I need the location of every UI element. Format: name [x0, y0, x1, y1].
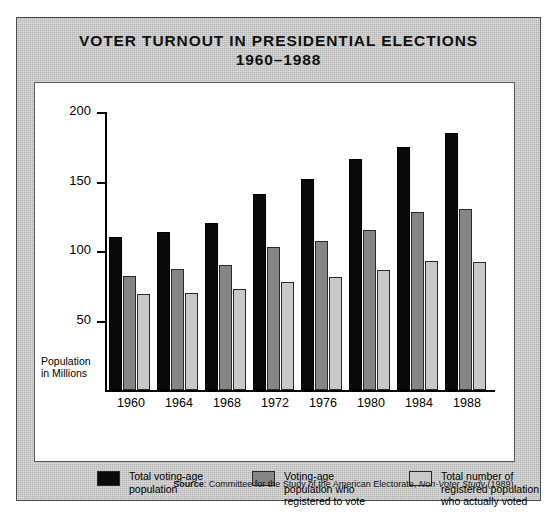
bar-1976-series-3: [329, 277, 342, 390]
bar-1984-series-3: [425, 261, 438, 390]
bar-1964-series-3: [185, 293, 198, 390]
bar-group-1968: [203, 110, 251, 390]
x-tick-label-1960: 1960: [107, 396, 155, 410]
y-tick-50: 50: [97, 321, 106, 323]
bar-group-1972: [251, 110, 299, 390]
source-note: Source: Committee for the Study of the A…: [173, 479, 516, 489]
source-italic-title: Non-Voter Study: [419, 479, 485, 489]
bar-1968-series-2: [219, 265, 232, 390]
bar-1988-series-3: [473, 262, 486, 390]
bar-1980-series-2: [363, 230, 376, 390]
bar-1984-series-1: [397, 147, 410, 390]
source-year: (1989).: [485, 479, 516, 489]
bar-1968-series-1: [205, 223, 218, 390]
bar-1964-series-2: [171, 269, 184, 390]
y-tick-100: 100: [97, 251, 106, 253]
x-tick-label-1980: 1980: [347, 396, 395, 410]
legend-swatch-1: [97, 471, 120, 486]
bar-1980-series-1: [349, 159, 362, 390]
bar-1972-series-2: [267, 247, 280, 390]
y-axis-title-line-1: Population: [41, 355, 101, 367]
bar-group-1988: [443, 110, 491, 390]
bar-1960-series-1: [109, 237, 122, 390]
source-label: Source: [173, 479, 204, 489]
y-tick-200: 200: [97, 112, 106, 114]
bar-group-1960: [107, 110, 155, 390]
y-tick-label-100: 100: [69, 242, 91, 257]
y-tick-label-150: 150: [69, 173, 91, 188]
bar-1964-series-1: [157, 232, 170, 390]
legend-label-2-line-3: registered to vote: [284, 495, 365, 508]
x-tick-label-1968: 1968: [203, 396, 251, 410]
bar-1976-series-1: [301, 179, 314, 390]
bar-1972-series-1: [253, 194, 266, 390]
bar-1960-series-3: [137, 294, 150, 390]
bar-1984-series-2: [411, 212, 424, 390]
chart-title: VOTER TURNOUT IN PRESIDENTIAL ELECTIONS …: [17, 31, 540, 69]
y-tick-label-50: 50: [77, 312, 91, 327]
bar-groups: [107, 83, 495, 392]
legend-label-3-line-3: who actually voted: [441, 495, 539, 508]
bar-1972-series-3: [281, 282, 294, 390]
y-tick-150: 150: [97, 182, 106, 184]
chart-figure: VOTER TURNOUT IN PRESIDENTIAL ELECTIONS …: [16, 17, 541, 501]
bar-1988-series-1: [445, 133, 458, 390]
x-tick-label-1976: 1976: [299, 396, 347, 410]
bar-group-1984: [395, 110, 443, 390]
bar-1980-series-3: [377, 270, 390, 390]
bar-1960-series-2: [123, 276, 136, 390]
bar-group-1964: [155, 110, 203, 390]
bar-1968-series-3: [233, 289, 246, 390]
y-axis-title: Population in Millions: [41, 355, 101, 379]
bar-1988-series-2: [459, 209, 472, 390]
bar-1976-series-2: [315, 241, 328, 390]
x-tick-label-1984: 1984: [395, 396, 443, 410]
plot-area: 50100150200 1960196419681972197619801984…: [34, 82, 515, 462]
source-text: Committee for the Study of the American …: [209, 479, 419, 489]
chart-legend: Total voting-agepopulationVoting-agepopu…: [34, 470, 515, 519]
chart-title-line-1: VOTER TURNOUT IN PRESIDENTIAL ELECTIONS: [17, 31, 540, 50]
x-tick-label-1988: 1988: [443, 396, 491, 410]
x-tick-label-1972: 1972: [251, 396, 299, 410]
chart-title-line-2: 1960–1988: [17, 50, 540, 69]
y-tick-label-200: 200: [69, 103, 91, 118]
bar-group-1980: [347, 110, 395, 390]
bar-group-1976: [299, 110, 347, 390]
x-tick-label-1964: 1964: [155, 396, 203, 410]
y-axis-title-line-2: in Millions: [41, 367, 101, 379]
